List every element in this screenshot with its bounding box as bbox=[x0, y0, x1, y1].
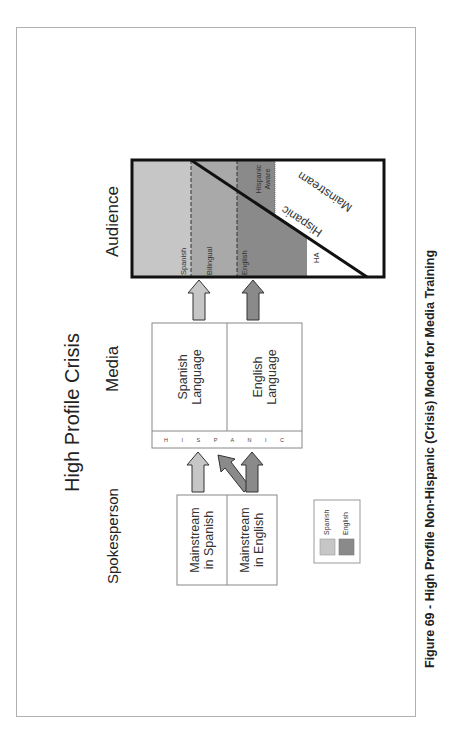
spokesperson-english-line2: in English bbox=[252, 507, 266, 572]
section-media-label: Media bbox=[102, 342, 124, 392]
legend bbox=[314, 500, 360, 563]
hispanic-aware-line2: Aware bbox=[263, 161, 272, 197]
arrow-spanish-spokesperson-media bbox=[187, 452, 209, 492]
legend-swatch-english bbox=[339, 539, 354, 555]
hispanic-strip: H I S P A N I C bbox=[152, 431, 302, 448]
section-audience-label: Audience bbox=[102, 177, 124, 257]
audience-bilingual-segment bbox=[191, 160, 237, 277]
media-spanish-language: SpanishLanguage bbox=[152, 323, 227, 431]
section-spokesperson-label: Spokesperson bbox=[102, 499, 124, 584]
spokesperson-english-line1: Mainstream bbox=[238, 507, 252, 572]
arrow-english-media-audience bbox=[242, 280, 264, 320]
hispanic-aware-line1: Hispanic bbox=[254, 161, 263, 197]
legend-swatch-spanish bbox=[320, 539, 335, 555]
figure-caption: Figure 69 - High Profile Non-Hispanic (C… bbox=[422, 153, 438, 668]
spokesperson-spanish-line1: Mainstream bbox=[188, 507, 202, 572]
legend-label-spanish: Spanish bbox=[322, 510, 331, 535]
audience-hispanic-aware-label: Hispanic Aware bbox=[254, 161, 272, 197]
media-english-line2: Language bbox=[265, 349, 279, 405]
audience-spanish-label: Spanish bbox=[179, 248, 188, 275]
audience-ha-label: HA bbox=[312, 253, 321, 263]
spokesperson-mainstream-english: Mainstreamin English bbox=[227, 495, 277, 585]
media-spanish-line1: Spanish bbox=[176, 349, 190, 405]
media-english-line1: English bbox=[251, 349, 265, 405]
legend-label-english: English bbox=[341, 512, 350, 535]
audience-english-label: English bbox=[240, 250, 249, 275]
arrow-spanish-media-audience bbox=[188, 280, 210, 320]
figure-title: High Profile Crisis bbox=[60, 327, 84, 492]
hispanic-strip-label: H I S P A N I C bbox=[164, 437, 290, 443]
media-spanish-line2: Language bbox=[190, 349, 204, 405]
audience-bilingual-label: Bilingual bbox=[205, 247, 214, 275]
spokesperson-spanish-line2: in Spanish bbox=[202, 507, 216, 572]
media-english-language: EnglishLanguage bbox=[227, 323, 302, 431]
spokesperson-mainstream-spanish: Mainstreamin Spanish bbox=[177, 495, 227, 585]
